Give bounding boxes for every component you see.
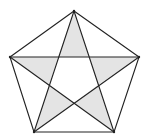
vertex-a [73, 10, 75, 12]
vertex-b [138, 56, 140, 58]
pentagram-diagram [0, 0, 148, 136]
vertex-c [113, 131, 115, 133]
shaded-triangle-c [74, 85, 114, 132]
vertex-e [9, 56, 11, 58]
vertex-d [33, 131, 35, 133]
shaded-triangle-d [34, 85, 74, 132]
pentagram-canvas [0, 0, 148, 136]
